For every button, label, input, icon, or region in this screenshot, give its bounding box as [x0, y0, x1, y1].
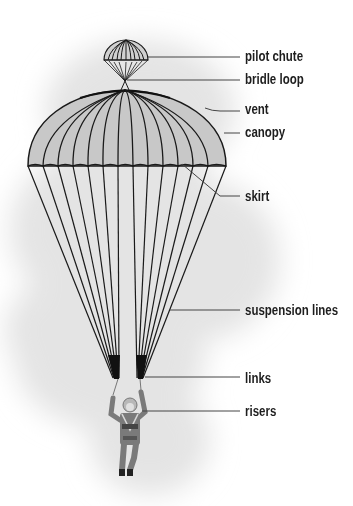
parachute-diagram: pilot chute bridle loop vent canopy skir…: [0, 0, 353, 506]
label-bridle-loop: bridle loop: [245, 71, 304, 87]
label-links: links: [245, 370, 271, 386]
label-pilot-chute: pilot chute: [245, 48, 303, 64]
label-canopy: canopy: [245, 124, 285, 140]
label-vent: vent: [245, 101, 269, 117]
label-risers: risers: [245, 403, 276, 419]
label-suspension-lines: suspension lines: [245, 302, 338, 318]
label-skirt: skirt: [245, 188, 269, 204]
